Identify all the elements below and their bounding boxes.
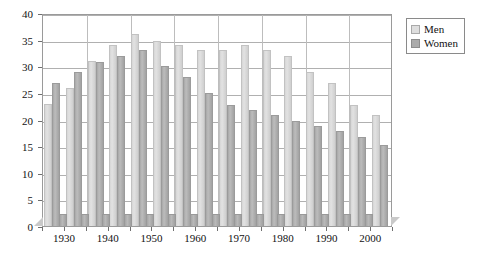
bar-men (131, 34, 139, 226)
bar-women-minor (59, 214, 67, 226)
bar-women-minor (256, 214, 264, 226)
bar-men (66, 88, 74, 226)
x-tick-mark (195, 227, 196, 231)
bar-women-minor (321, 214, 329, 226)
bar-men (372, 115, 380, 226)
bar-women (205, 93, 213, 226)
x-tick-label: 1950 (140, 233, 162, 244)
bar-women (249, 110, 257, 226)
x-tick-label: 2000 (359, 233, 381, 244)
bar-women-minor (365, 214, 373, 226)
legend-swatch-women-icon (411, 39, 420, 48)
y-tick-label: 20 (22, 115, 33, 126)
x-tick-mark (326, 227, 327, 231)
bar-women (292, 121, 300, 226)
x-tick-label: 1970 (228, 233, 250, 244)
bar-women-minor (277, 214, 285, 226)
bar-women (96, 62, 104, 226)
bar-women-minor (212, 214, 220, 226)
x-tick-mark-minor (261, 227, 262, 231)
x-tick-mark (108, 227, 109, 231)
y-tick-label: 30 (22, 62, 33, 73)
legend-item-women[interactable]: Women (411, 36, 458, 50)
bar-women-minor (81, 214, 89, 226)
legend-item-men[interactable]: Men (411, 22, 458, 36)
x-tick-mark-minor (86, 227, 87, 231)
axis-floor-right (391, 217, 400, 226)
plot-area (42, 14, 392, 227)
x-tick-mark-minor (173, 227, 174, 231)
bar-men (219, 50, 227, 226)
legend-swatch-men-icon (411, 25, 420, 34)
x-tick-mark-minor (42, 227, 43, 231)
bar-women-minor (190, 214, 198, 226)
x-axis: 19301940195019601970198019902000 (42, 227, 392, 256)
bar-women-minor (146, 214, 154, 226)
bar-men (350, 105, 358, 226)
x-tick-mark-minor (217, 227, 218, 231)
y-tick-label: 25 (22, 88, 33, 99)
y-tick-label: 0 (28, 222, 34, 233)
bar-men (88, 61, 96, 226)
x-tick-label: 1960 (184, 233, 206, 244)
bar-women (74, 72, 82, 226)
bar-women (271, 115, 279, 226)
bar-men (328, 83, 336, 226)
bar-chart: 0510152025303540 19301940195019601970198… (0, 0, 478, 256)
x-tick-mark-minor (130, 227, 131, 231)
y-tick-label: 10 (22, 168, 33, 179)
bar-women (117, 56, 125, 226)
bar-men (284, 56, 292, 226)
bar-women (183, 77, 191, 226)
x-tick-mark-minor (392, 227, 393, 231)
x-tick-label: 1980 (272, 233, 294, 244)
bar-women (52, 83, 60, 226)
y-tick-label: 40 (22, 9, 33, 20)
y-tick-label: 5 (28, 195, 34, 206)
bar-women (227, 105, 235, 226)
bar-men (241, 45, 249, 226)
x-tick-label: 1990 (315, 233, 337, 244)
bar-women-minor (102, 214, 110, 226)
x-tick-mark (370, 227, 371, 231)
bar-men (306, 72, 314, 226)
bar-women-minor (234, 214, 242, 226)
bar-women-minor (124, 214, 132, 226)
bar-women-minor (343, 214, 351, 226)
x-tick-mark-minor (348, 227, 349, 231)
bar-women (161, 66, 169, 226)
x-tick-mark (64, 227, 65, 231)
bar-men (263, 50, 271, 226)
bar-men (44, 104, 52, 226)
gridline (43, 15, 391, 16)
bar-women-minor (168, 214, 176, 226)
gridline (43, 42, 391, 43)
bar-men (153, 41, 161, 226)
legend-label-women: Women (424, 38, 458, 49)
bar-women (358, 137, 366, 226)
bar-men (175, 45, 183, 226)
bar-men (197, 50, 205, 226)
bar-women (314, 126, 322, 226)
x-tick-label: 1940 (97, 233, 119, 244)
bar-women (139, 50, 147, 226)
legend-label-men: Men (424, 24, 444, 35)
bar-women (380, 145, 388, 226)
bar-men (109, 45, 117, 226)
x-tick-mark (151, 227, 152, 231)
y-tick-label: 15 (22, 142, 33, 153)
bar-women-minor (299, 214, 307, 226)
x-tick-mark (239, 227, 240, 231)
y-tick-label: 35 (22, 35, 33, 46)
x-tick-label: 1930 (53, 233, 75, 244)
x-tick-mark-minor (305, 227, 306, 231)
x-tick-mark (283, 227, 284, 231)
legend: Men Women (406, 18, 465, 54)
axis-floor-left (34, 217, 43, 226)
bar-women (336, 131, 344, 226)
